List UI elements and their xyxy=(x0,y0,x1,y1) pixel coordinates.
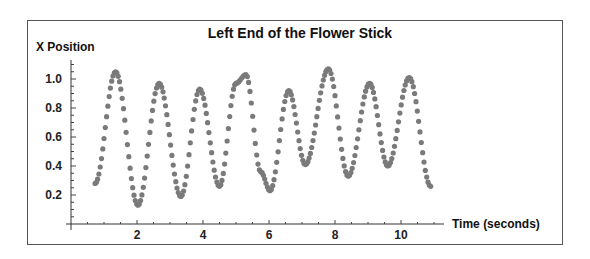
data-point xyxy=(251,128,256,133)
data-point xyxy=(171,163,176,168)
x-tick-label: 2 xyxy=(134,228,141,242)
data-point xyxy=(103,125,108,130)
data-point xyxy=(295,129,300,134)
data-point xyxy=(120,96,125,101)
data-point xyxy=(289,92,294,97)
data-point xyxy=(100,146,105,151)
data-point xyxy=(313,122,318,127)
data-point xyxy=(379,140,384,145)
data-point xyxy=(371,90,376,95)
data-point xyxy=(130,185,135,190)
data-point xyxy=(168,143,173,148)
data-point xyxy=(354,145,359,150)
data-point xyxy=(411,84,416,89)
data-point xyxy=(428,184,433,189)
data-point xyxy=(421,160,426,165)
y-tick-label: 0.8 xyxy=(45,101,62,115)
data-point xyxy=(393,136,398,141)
data-point xyxy=(356,127,361,132)
data-point xyxy=(162,96,167,101)
data-point xyxy=(222,162,227,167)
data-point xyxy=(399,102,404,107)
data-point xyxy=(213,174,218,179)
data-point xyxy=(255,162,260,167)
x-tick-label: 8 xyxy=(332,228,339,242)
data-points xyxy=(93,66,434,208)
data-point xyxy=(210,159,215,164)
data-point xyxy=(270,183,275,188)
data-point xyxy=(307,156,312,161)
data-point xyxy=(225,138,230,143)
data-point xyxy=(389,156,394,161)
data-point xyxy=(247,89,252,94)
data-point xyxy=(331,84,336,89)
y-tick-label: 0.4 xyxy=(45,159,62,173)
data-point xyxy=(380,148,385,153)
data-point xyxy=(164,112,169,117)
data-point xyxy=(294,121,299,126)
chart-title: Left End of the Flower Stick xyxy=(208,25,393,41)
data-point xyxy=(249,100,254,105)
data-point xyxy=(208,140,213,145)
data-point xyxy=(282,99,287,104)
data-point xyxy=(397,111,402,116)
data-point xyxy=(277,138,282,143)
data-point xyxy=(420,150,425,155)
data-point xyxy=(101,136,106,141)
data-point xyxy=(424,175,429,180)
data-point xyxy=(169,153,174,158)
data-point xyxy=(271,177,276,182)
data-point xyxy=(413,99,418,104)
data-point xyxy=(375,113,380,118)
data-point xyxy=(336,126,341,131)
data-point xyxy=(189,128,194,133)
data-point xyxy=(335,114,340,119)
data-point xyxy=(160,89,165,94)
data-point xyxy=(332,93,337,98)
data-point xyxy=(128,166,133,171)
data-point xyxy=(415,109,420,114)
data-point xyxy=(150,108,155,113)
data-point xyxy=(395,128,400,133)
data-point xyxy=(204,111,209,116)
data-point xyxy=(370,85,375,90)
data-point xyxy=(221,171,226,176)
data-point xyxy=(317,98,322,103)
data-point xyxy=(138,198,143,203)
data-point xyxy=(359,109,364,114)
data-point xyxy=(254,152,259,157)
data-point xyxy=(299,153,304,158)
data-point xyxy=(314,114,319,119)
data-point xyxy=(400,95,405,100)
x-tick-label: 4 xyxy=(200,228,207,242)
data-point xyxy=(246,80,251,85)
data-point xyxy=(122,118,127,123)
data-point xyxy=(412,91,417,96)
data-point xyxy=(184,174,189,179)
data-point xyxy=(227,114,232,119)
data-point xyxy=(352,153,357,158)
data-point xyxy=(376,122,381,127)
data-point xyxy=(250,114,255,119)
data-point xyxy=(166,122,171,127)
data-point xyxy=(401,88,406,93)
data-point xyxy=(139,192,144,197)
data-point xyxy=(181,189,186,194)
data-point xyxy=(126,154,131,159)
data-point xyxy=(334,103,339,108)
data-point xyxy=(149,118,154,123)
data-point xyxy=(291,104,296,109)
data-point xyxy=(151,99,156,104)
data-point xyxy=(174,185,179,190)
data-point xyxy=(312,131,317,136)
data-point xyxy=(276,149,281,154)
data-point xyxy=(281,107,286,112)
data-point xyxy=(104,114,109,119)
data-point xyxy=(280,116,285,121)
data-point xyxy=(319,83,324,88)
data-point xyxy=(163,103,168,108)
data-point xyxy=(129,176,134,181)
data-point xyxy=(212,168,217,173)
data-point xyxy=(362,94,367,99)
data-point xyxy=(351,160,356,165)
